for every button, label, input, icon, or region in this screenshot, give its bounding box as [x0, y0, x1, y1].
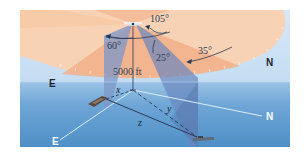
label-z: z [137, 117, 142, 128]
compass-sea-east: E [52, 136, 59, 147]
label-angle-35: 35° [198, 45, 212, 56]
compass-sea-north: N [266, 111, 273, 122]
label-x: x [115, 84, 121, 95]
label-altitude: 5000 ft [113, 66, 142, 77]
label-angle-105: 105° [150, 13, 169, 24]
sea-surface [20, 82, 290, 147]
compass-sky-north: N [266, 57, 273, 68]
diagram-canvas: 105° 60° 25° 35° 5000 ft E N E N x y z [0, 0, 306, 164]
label-angle-25: 25° [156, 52, 170, 63]
compass-sky-east: E [49, 78, 56, 89]
label-y: y [166, 103, 172, 114]
label-angle-60: 60° [107, 40, 121, 51]
